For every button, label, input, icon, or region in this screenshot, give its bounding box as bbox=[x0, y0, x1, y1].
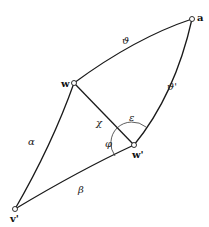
edge-alpha bbox=[15, 83, 74, 209]
label-epsilon: ε bbox=[129, 112, 134, 123]
label-v-prime: v' bbox=[9, 213, 19, 224]
vertex-w bbox=[72, 81, 77, 86]
label-theta: ϑ bbox=[122, 35, 129, 46]
label-theta-prime: ϑ' bbox=[167, 81, 177, 92]
label-w: w bbox=[60, 78, 70, 89]
edge-theta bbox=[74, 19, 192, 83]
label-chi: χ bbox=[95, 117, 103, 128]
diagram-canvas: a w w' v' ϑ ϑ' χ ε φ α β bbox=[0, 0, 209, 227]
edge-theta-prime bbox=[134, 19, 192, 145]
label-beta: β bbox=[77, 184, 84, 195]
label-phi: φ bbox=[105, 138, 112, 149]
edge-chi bbox=[74, 83, 134, 145]
label-alpha: α bbox=[28, 136, 35, 147]
label-a: a bbox=[197, 12, 204, 23]
vertex-a bbox=[190, 17, 195, 22]
label-w-prime: w' bbox=[131, 149, 144, 160]
vertex-v-prime bbox=[13, 207, 18, 212]
vertex-w-prime bbox=[132, 143, 137, 148]
